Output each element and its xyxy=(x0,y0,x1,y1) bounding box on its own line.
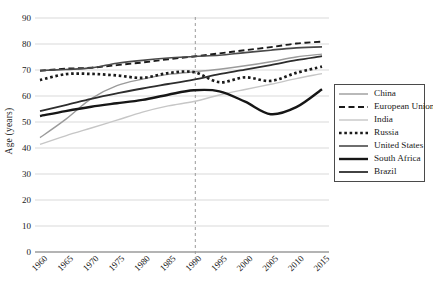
legend-item-russia: Russia xyxy=(339,127,424,139)
x-tick-label: 1960 xyxy=(30,253,50,273)
legend-line-sample-brazil xyxy=(339,168,369,176)
legend-item-china: China xyxy=(339,88,424,100)
x-tick-label: 1980 xyxy=(132,253,152,273)
x-tick-label: 1990 xyxy=(183,253,203,273)
legend-line-sample-india xyxy=(339,116,369,124)
legend-box: ChinaEuropean UnionIndiaRussiaUnited Sta… xyxy=(334,84,425,182)
legend-label-india: India xyxy=(374,115,393,124)
y-axis-tick-labels: 0102030405060708090 xyxy=(22,13,32,257)
legend-label-brazil: Brazil xyxy=(374,167,396,176)
x-axis-tick-labels: 1960196519701975198019851990199520002005… xyxy=(30,253,332,273)
legend-item-india: India xyxy=(339,114,424,126)
legend-item-south-africa: South Africa xyxy=(339,153,424,165)
legend-label-european-union: European Union xyxy=(374,102,433,111)
legend-label-china: China xyxy=(374,89,396,98)
x-tick-label: 1965 xyxy=(55,253,75,273)
legend-label-south-africa: South Africa xyxy=(374,154,421,163)
y-tick-label: 90 xyxy=(22,13,32,23)
series-line-south-africa xyxy=(40,89,322,116)
line-chart: 0102030405060708090196019651970197519801… xyxy=(0,0,433,289)
y-tick-label: 80 xyxy=(22,39,32,49)
y-tick-label: 40 xyxy=(22,143,32,153)
legend-item-brazil: Brazil xyxy=(339,166,424,178)
legend-label-united-states: United States xyxy=(374,141,423,150)
legend-item-european-union: European Union xyxy=(339,101,424,113)
series-line-brazil xyxy=(40,56,322,111)
x-tick-label: 1985 xyxy=(158,253,178,273)
y-tick-label: 30 xyxy=(22,169,32,179)
y-tick-label: 70 xyxy=(22,65,32,75)
x-tick-label: 1975 xyxy=(107,253,127,273)
legend-line-sample-united-states xyxy=(339,142,369,150)
x-tick-label: 2010 xyxy=(286,253,306,273)
x-tick-label: 2015 xyxy=(312,253,332,273)
y-tick-label: 0 xyxy=(27,247,32,257)
y-tick-label: 60 xyxy=(22,91,32,101)
x-tick-label: 1995 xyxy=(209,253,229,273)
series-line-united-states xyxy=(40,47,322,71)
legend-line-sample-european-union xyxy=(339,103,369,111)
legend-item-united-states: United States xyxy=(339,140,424,152)
y-tick-label: 50 xyxy=(22,117,32,127)
x-tick-label: 2005 xyxy=(260,253,280,273)
legend-label-russia: Russia xyxy=(374,128,399,137)
y-tick-label: 20 xyxy=(22,195,32,205)
y-tick-label: 10 xyxy=(22,221,32,231)
legend-line-sample-russia xyxy=(339,129,369,137)
legend-line-sample-china xyxy=(339,90,369,98)
x-tick-label: 1970 xyxy=(81,253,101,273)
legend-line-sample-south-africa xyxy=(339,155,369,163)
series-line-european-union xyxy=(40,42,322,71)
x-tick-label: 2000 xyxy=(235,253,255,273)
y-axis-title: Age (years) xyxy=(4,66,14,196)
